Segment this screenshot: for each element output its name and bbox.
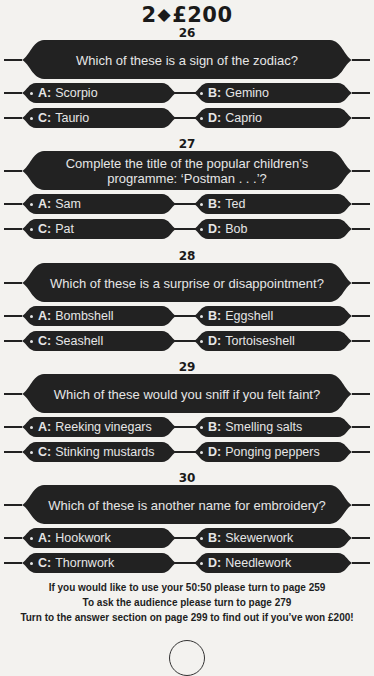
answer-c[interactable]: C:Pat (30, 219, 74, 239)
answer-letter: C: (38, 445, 51, 459)
answer-text: Caprio (225, 111, 262, 125)
answer-letter: D: (208, 111, 221, 125)
answer-text: Skewerwork (225, 531, 293, 545)
answer-a[interactable]: A:Sam (30, 194, 81, 214)
prize-amount: £200 (172, 3, 232, 27)
bullet-icon (30, 117, 33, 120)
answer-letter: B: (208, 309, 221, 323)
bullet-icon (200, 451, 203, 454)
answer-letter: A: (38, 309, 51, 323)
answer-d[interactable]: D:Ponging peppers (200, 442, 320, 462)
answer-text: Smelling salts (225, 420, 302, 434)
question-text: Complete the title of the popular childr… (40, 152, 334, 190)
answer-text: Needlework (225, 556, 291, 570)
answer-text: Taurio (55, 111, 89, 125)
answer-letter: B: (208, 420, 221, 434)
bullet-icon (30, 451, 33, 454)
answer-text: Stinking mustards (55, 445, 154, 459)
bullet-icon (30, 340, 33, 343)
answer-text: Tortoiseshell (225, 334, 294, 348)
answer-c[interactable]: C:Taurio (30, 108, 89, 128)
bullet-icon (200, 203, 203, 206)
question-block-30: 30 Which of these is another name for em… (0, 471, 374, 582)
answer-b[interactable]: B:Smelling salts (200, 417, 302, 437)
bullet-icon (200, 340, 203, 343)
bullet-icon (200, 92, 203, 95)
answer-letter: B: (208, 86, 221, 100)
bullet-icon (200, 228, 203, 231)
answer-letter: A: (38, 531, 51, 545)
answer-c[interactable]: C:Thornwork (30, 553, 114, 573)
answer-letter: A: (38, 86, 51, 100)
answer-text: Ponging peppers (225, 445, 320, 459)
answer-letter: C: (38, 334, 51, 348)
answer-text: Sam (55, 197, 81, 211)
bullet-icon (200, 426, 203, 429)
page-number-circle (169, 640, 205, 676)
bullet-icon (30, 426, 33, 429)
prize-heading: 2◆£200 (0, 3, 374, 27)
question-block-28: 28 Which of these is a surprise or disap… (0, 249, 374, 360)
answer-a[interactable]: A:Scorpio (30, 83, 98, 103)
answer-letter: A: (38, 420, 51, 434)
question-text: Which of these is another name for embro… (40, 486, 334, 524)
answer-b[interactable]: B:Gemino (200, 83, 269, 103)
answer-letter: D: (208, 556, 221, 570)
bullet-icon (200, 315, 203, 318)
answer-text: Bombshell (55, 309, 113, 323)
question-block-29: 29 Which of these would you sniff if you… (0, 360, 374, 471)
bullet-icon (30, 228, 33, 231)
answer-letter: D: (208, 222, 221, 236)
lifeline-instructions: If you would like to use your 50:50 plea… (0, 580, 374, 625)
answer-c[interactable]: C:Seashell (30, 331, 103, 351)
answer-a[interactable]: A:Hookwork (30, 528, 111, 548)
answer-text: Pat (55, 222, 74, 236)
answer-d[interactable]: D:Bob (200, 219, 247, 239)
ask-audience-instruction: To ask the audience please turn to page … (0, 595, 374, 610)
answer-letter: B: (208, 197, 221, 211)
question-block-26: 26 Which of these is a sign of the zodia… (0, 26, 374, 137)
answer-text: Bob (225, 222, 247, 236)
prize-prefix: 2 (141, 3, 156, 27)
answer-c[interactable]: C:Stinking mustards (30, 442, 155, 462)
question-text: Which of these is a surprise or disappoi… (40, 264, 334, 302)
answer-b[interactable]: B:Eggshell (200, 306, 273, 326)
answer-a[interactable]: A:Reeking vinegars (30, 417, 152, 437)
question-block-27: 27 Complete the title of the popular chi… (0, 137, 374, 248)
answer-d[interactable]: D:Tortoiseshell (200, 331, 295, 351)
answer-text: Eggshell (225, 309, 273, 323)
answer-letter: D: (208, 334, 221, 348)
answer-d[interactable]: D:Needlework (200, 553, 291, 573)
answer-text: Thornwork (55, 556, 114, 570)
diamond-icon: ◆ (158, 4, 172, 24)
answer-letter: D: (208, 445, 221, 459)
answer-text: Ted (225, 197, 245, 211)
question-text: Which of these is a sign of the zodiac? (40, 41, 334, 79)
answer-letter: C: (38, 556, 51, 570)
question-text: Which of these would you sniff if you fe… (40, 375, 334, 413)
bullet-icon (30, 315, 33, 318)
answer-text: Scorpio (55, 86, 97, 100)
answer-letter: C: (38, 222, 51, 236)
answer-b[interactable]: B:Skewerwork (200, 528, 293, 548)
bullet-icon (200, 562, 203, 565)
answer-text: Seashell (55, 334, 103, 348)
bullet-icon (30, 562, 33, 565)
answer-letter: A: (38, 197, 51, 211)
bullet-icon (30, 537, 33, 540)
answer-text: Reeking vinegars (55, 420, 152, 434)
bullet-icon (200, 117, 203, 120)
answer-text: Gemino (225, 86, 269, 100)
fifty-fifty-instruction: If you would like to use your 50:50 plea… (0, 580, 374, 595)
bullet-icon (30, 203, 33, 206)
answer-letter: B: (208, 531, 221, 545)
bullet-icon (200, 537, 203, 540)
answer-letter: C: (38, 111, 51, 125)
answer-b[interactable]: B:Ted (200, 194, 245, 214)
answer-section-instruction: Turn to the answer section on page 299 t… (0, 610, 374, 625)
answer-d[interactable]: D:Caprio (200, 108, 262, 128)
answer-a[interactable]: A:Bombshell (30, 306, 114, 326)
bullet-icon (30, 92, 33, 95)
answer-text: Hookwork (55, 531, 111, 545)
